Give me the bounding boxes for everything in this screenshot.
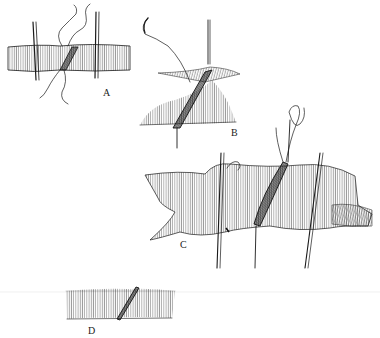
panel-a-thread-top-2 xyxy=(68,4,90,46)
panel-c: C xyxy=(145,106,372,268)
panel-b-vessel-upper xyxy=(158,67,240,82)
panel-a-thread-top-1 xyxy=(59,5,77,46)
panel-d: D xyxy=(66,287,175,336)
panel-b-label: B xyxy=(231,127,238,138)
panel-a: A xyxy=(8,4,130,104)
anastomosis-illustration: A B C xyxy=(0,0,380,338)
panel-b: B xyxy=(140,18,240,148)
panel-c-vessel-stump xyxy=(332,204,372,226)
panel-c-needle-holder xyxy=(288,120,290,162)
panel-a-label: A xyxy=(103,87,111,98)
panel-c-clamp-mid xyxy=(255,226,256,268)
panel-d-label: D xyxy=(88,325,95,336)
panel-a-thread-bottom-2 xyxy=(62,70,68,104)
panel-b-needle xyxy=(144,18,148,33)
panel-c-label: C xyxy=(180,239,187,250)
panel-c-thread-left xyxy=(276,128,283,162)
panel-a-thread-bottom-1 xyxy=(40,70,60,98)
panel-c-vessel xyxy=(145,164,372,240)
